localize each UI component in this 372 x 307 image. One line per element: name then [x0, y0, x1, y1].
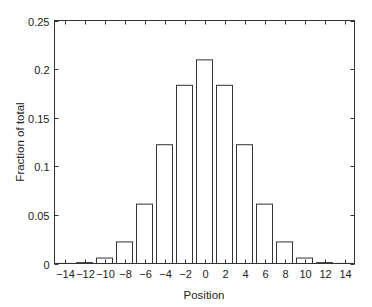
x-tick-label: 2 — [222, 268, 228, 280]
y-tick-label: 0.25 — [28, 16, 49, 28]
bar — [197, 60, 213, 264]
x-tick-label: −10 — [96, 268, 115, 280]
y-tick-label: 0.15 — [28, 113, 49, 125]
y-tick-label: 0.1 — [34, 161, 49, 173]
bar — [157, 145, 173, 264]
bar — [177, 85, 193, 263]
bar — [257, 204, 273, 263]
x-tick-label: −4 — [159, 268, 172, 280]
y-axis-label: Fraction of total — [14, 102, 26, 181]
bar — [137, 204, 153, 263]
bars-group — [57, 60, 353, 264]
y-tick-label: 0.05 — [28, 210, 49, 222]
x-tick-label: 10 — [299, 268, 311, 280]
x-tick-label: −2 — [179, 268, 192, 280]
x-tick-label: 0 — [202, 268, 208, 280]
x-tick-label: 12 — [319, 268, 331, 280]
bar — [117, 242, 133, 264]
x-tick-label: 6 — [262, 268, 268, 280]
y-tick-label: 0 — [43, 259, 49, 271]
x-tick-label: −8 — [119, 268, 132, 280]
y-tick-label: 0.2 — [34, 64, 49, 76]
x-tick-label: 4 — [242, 268, 248, 280]
bar — [217, 85, 233, 263]
x-tick-label: 8 — [282, 268, 288, 280]
x-tick-label: −6 — [139, 268, 152, 280]
bar-chart: −14−12−10−8−6−4−202468101214 00.050.10.1… — [0, 0, 372, 307]
x-tick-label: 14 — [339, 268, 351, 280]
bar — [297, 258, 313, 263]
x-axis-label: Position — [184, 289, 225, 301]
bar — [237, 145, 253, 264]
bar — [97, 258, 113, 263]
bar — [277, 242, 293, 264]
x-tick-label: −14 — [56, 268, 75, 280]
x-tick-label: −12 — [76, 268, 95, 280]
